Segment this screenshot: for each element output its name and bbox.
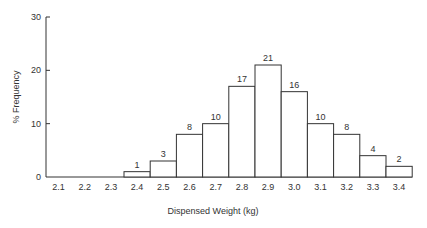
bar-value-label: 4 [370,144,375,154]
bar-value-label: 21 [263,53,273,63]
bar-value-label: 8 [187,122,192,132]
histogram-chart: 0102030 2.12.22.32.42.52.62.72.82.93.03.… [0,0,427,228]
x-tick-label: 2.4 [131,182,144,192]
histogram-bar [307,124,333,177]
x-axis: 2.12.22.32.42.52.62.72.82.93.03.13.23.33… [46,177,412,192]
bar-value-label: 1 [135,160,140,170]
bar-value-label: 16 [289,80,299,90]
x-tick-label: 2.5 [157,182,170,192]
histogram-bar [386,166,412,177]
x-axis-title: Dispensed Weight (kg) [168,206,259,216]
y-tick-label: 0 [36,172,41,182]
bars: 1381017211610842 [124,53,412,177]
histogram-bar [360,156,386,177]
x-tick-label: 3.1 [314,182,327,192]
x-tick-label: 2.7 [209,182,222,192]
x-tick-label: 3.4 [393,182,406,192]
x-tick-label: 2.6 [183,182,196,192]
histogram-bar [124,172,150,177]
x-tick-label: 2.9 [262,182,275,192]
y-tick-label: 20 [31,65,41,75]
x-tick-label: 3.0 [288,182,301,192]
x-tick-label: 3.2 [340,182,353,192]
x-tick-label: 3.3 [367,182,380,192]
histogram-bar [176,134,202,177]
y-axis: 0102030 [31,12,50,182]
y-axis-title: % Frequency [11,70,21,124]
x-tick-label: 2.2 [78,182,91,192]
histogram-bar [281,92,307,177]
histogram-bar [255,65,281,177]
bar-value-label: 10 [211,112,221,122]
x-tick-label: 2.1 [52,182,65,192]
bar-value-label: 17 [237,74,247,84]
histogram-bar [203,124,229,177]
bar-value-label: 10 [315,112,325,122]
x-tick-label: 2.8 [236,182,249,192]
bar-value-label: 3 [161,149,166,159]
y-tick-label: 10 [31,119,41,129]
bar-value-label: 2 [397,154,402,164]
bar-value-label: 8 [344,122,349,132]
x-tick-label: 2.3 [105,182,118,192]
histogram-bar [229,86,255,177]
histogram-bar [334,134,360,177]
histogram-bar [150,161,176,177]
y-tick-label: 30 [31,12,41,22]
